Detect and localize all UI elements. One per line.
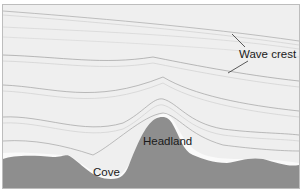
wave-crest-label: Wave crest	[239, 49, 296, 61]
wave-refraction-diagram: Wave crest Headland Cove	[2, 4, 300, 189]
diagram-canvas	[3, 5, 299, 188]
cove-label: Cove	[93, 167, 120, 179]
headland-label: Headland	[143, 136, 192, 148]
